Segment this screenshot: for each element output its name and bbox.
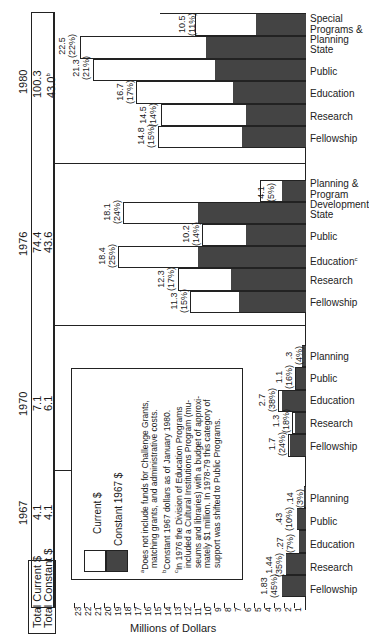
total-constant-1976: 43.6	[43, 232, 54, 253]
label-1967-education: .27(7%)	[276, 534, 295, 553]
legend-constant-swatch	[106, 550, 128, 572]
label-1976-fellowship: 11.3(15%)	[170, 289, 189, 313]
group-sep-1976-1970	[54, 325, 306, 326]
year-1976: 1976	[18, 232, 29, 256]
label-1967-public: .43(10%)	[275, 507, 294, 531]
bar-1976-state-constant	[198, 202, 306, 224]
tick-11: 11	[193, 607, 203, 616]
label-1980-state: 22.5(22%)	[58, 34, 77, 58]
category-1967-fellowship: Fellowship	[310, 585, 357, 596]
category-1980-education: Education	[310, 89, 354, 100]
category-1976-public: Public	[310, 232, 337, 243]
bar-1980-special-constant	[256, 13, 306, 36]
category-1967-research: Research	[310, 563, 353, 574]
category-1967-education: Education	[310, 540, 354, 551]
tick-marks	[74, 603, 302, 608]
label-1976-planning: 4.1(5%)	[257, 183, 276, 202]
label-1980-fellowship: 14.8(15%)	[137, 124, 156, 148]
label-1976-state: 18.1(24%)	[103, 200, 122, 224]
year-1967: 1967	[18, 501, 29, 525]
label-1970-fellowship: 1.7(24%)	[268, 432, 287, 456]
bar-1976-fellowship-constant	[239, 291, 306, 313]
label-1967-fellowship: 1.83(45%)	[260, 574, 279, 598]
bar-1980-research-constant	[246, 104, 306, 126]
header-label-box	[28, 560, 56, 634]
category-1970-fellowship: Fellowship	[310, 442, 357, 453]
total-constant-1970: 6.1	[43, 396, 54, 411]
category-1976-state: State	[310, 210, 333, 221]
bar-1967-public	[297, 508, 306, 530]
year-1970: 1970	[18, 392, 29, 416]
category-1980-state: State	[310, 45, 333, 56]
category-1970-public: Public	[310, 374, 337, 385]
bar-1980-state-constant	[206, 36, 306, 59]
bar-1967-fellowship	[282, 575, 306, 597]
category-1970-planning: Planning	[310, 352, 349, 363]
category-1976-research: Research	[310, 276, 353, 287]
bar-1967-education	[299, 530, 306, 553]
footnote-a: aDoes not include funds for Challenge Gr…	[138, 396, 222, 573]
bar-1980-education-constant	[233, 81, 306, 104]
bar-1967-research	[286, 553, 306, 575]
label-1976-public: 10.2(14%)	[182, 222, 201, 246]
category-1980-public: Public	[310, 67, 337, 78]
label-1980-education: 16.7(17%)	[116, 80, 135, 104]
bar-1976-public-constant	[246, 224, 306, 246]
bar-1976-education-constant	[198, 246, 306, 268]
category-1980-fellowship: Fellowship	[310, 134, 357, 145]
bar-1976-planning-constant	[282, 180, 306, 202]
category-1970-research: Research	[310, 419, 353, 430]
category-1976-planning: Planning &ProgramDevelopment	[310, 179, 369, 211]
label-1970-research: 1.3(18%)	[272, 409, 291, 433]
label-1967-planning: .14(3%)	[286, 489, 305, 508]
year-1980: 1980	[18, 70, 29, 94]
legend-constant-label: Constant 1967 $	[113, 473, 124, 546]
bar-1976-research-constant	[231, 268, 306, 291]
category-1976-education: Educationc	[310, 254, 357, 268]
bar-1980-public-constant	[215, 59, 306, 81]
label-1980-public: 21.3(21%)	[72, 56, 91, 80]
category-1976-fellowship: Fellowship	[310, 298, 357, 309]
category-1970-education: Education	[310, 396, 354, 407]
legend-current-label: Current $	[92, 492, 103, 534]
legend-current-swatch	[84, 550, 106, 572]
category-1967-planning: Planning	[310, 494, 349, 505]
group-sep-1970-1967	[54, 470, 71, 471]
bar-1970-fellowship-constant	[290, 434, 306, 457]
total-constant-1980: 43.0b	[43, 73, 57, 98]
bar-1980-fellowship-constant	[242, 126, 306, 148]
category-1967-public: Public	[310, 517, 337, 528]
total-constant-1967: 4.1	[43, 505, 54, 520]
category-1980-research: Research	[310, 112, 353, 123]
label-1980-special: 10.5(11%)	[178, 13, 197, 36]
total-current-1980: 100.3	[32, 70, 43, 98]
group-sep-1980-1976	[54, 163, 306, 164]
label-1970-public: 1.1(16%)	[275, 365, 294, 389]
bar-1970-research-constant	[295, 412, 306, 434]
label-1976-research: 12.3(17%)	[157, 267, 176, 291]
bar-1970-public-constant	[296, 367, 306, 390]
axis-title: Millions of Dollars	[130, 622, 216, 634]
label-1976-education: 18.4(25%)	[98, 244, 117, 268]
label-1970-planning: .3(4%)	[285, 346, 304, 365]
category-1980-special: SpecialPrograms &Planning	[310, 14, 363, 46]
